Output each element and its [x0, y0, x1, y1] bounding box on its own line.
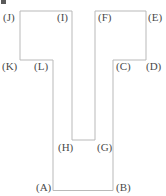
- vertex-label-k: (K): [2, 61, 17, 72]
- vertex-label-j: (J): [3, 12, 15, 23]
- vertex-label-e: (E): [148, 12, 162, 23]
- vertex-label-l: (L): [34, 61, 48, 72]
- vertex-label-h: (H): [58, 142, 73, 153]
- vertex-label-f: (F): [98, 12, 111, 23]
- polygon-outline-path: [20, 11, 146, 190]
- vertex-label-d: (D): [146, 61, 161, 72]
- vertex-label-g: (G): [97, 142, 112, 153]
- polygon-outline-svg: [0, 0, 166, 196]
- vertex-label-a: (A): [36, 182, 51, 193]
- vertex-label-b: (B): [116, 182, 131, 193]
- vertex-label-c: (C): [116, 61, 131, 72]
- figure-canvas: (A)(B)(C)(D)(E)(F)(G)(H)(I)(J)(K)(L): [0, 0, 166, 196]
- vertex-label-i: (I): [57, 12, 68, 23]
